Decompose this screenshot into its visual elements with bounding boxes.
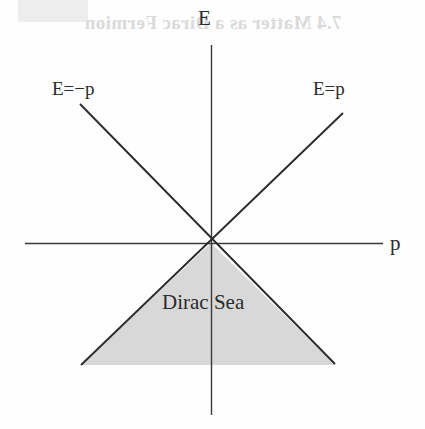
region-label-dirac-sea: Dirac Sea (162, 292, 244, 313)
figure-page: 7.4 Matter as a Dirac Fermion E p E=−p E… (0, 0, 425, 429)
line-label-e-equals-p: E=p (313, 79, 345, 98)
axis-label-p: p (390, 233, 401, 254)
dirac-sea-figure (0, 0, 425, 429)
axis-label-e: E (198, 8, 211, 29)
line-label-e-equals-minus-p: E=−p (52, 79, 95, 98)
